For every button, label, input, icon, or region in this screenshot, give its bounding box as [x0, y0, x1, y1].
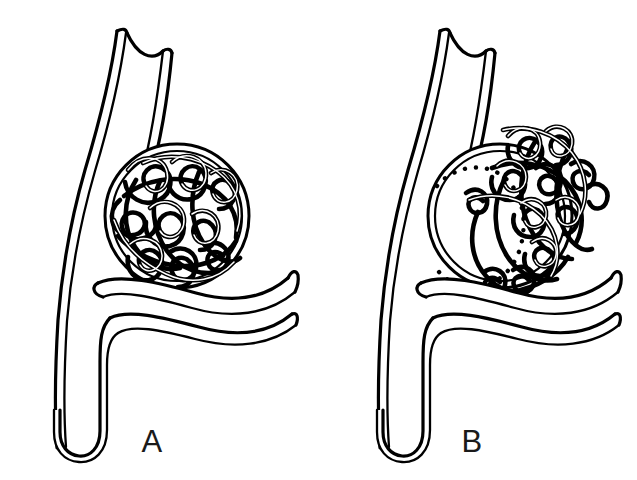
aneurysm-coiling-figure: A	[0, 0, 637, 480]
figure-root: A	[0, 0, 637, 480]
panel-a-label: A	[141, 424, 162, 459]
panel-b-label: B	[461, 424, 482, 459]
